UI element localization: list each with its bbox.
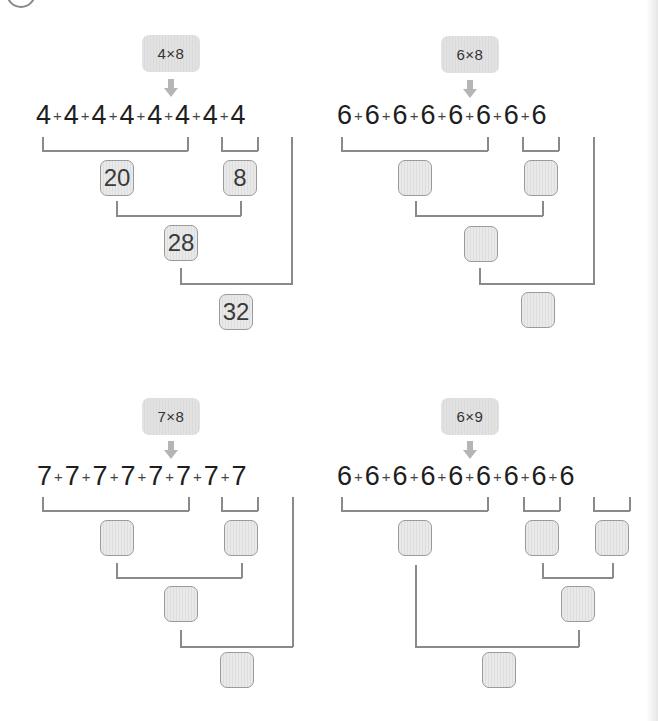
bracket-line [593,137,595,284]
bracket-line [479,283,595,285]
bracket-line [522,137,524,151]
bracket-line [221,497,223,511]
bracket-line [42,497,44,511]
problem-6x8: 6×8 6+6+6+6+6+6+6+6 [299,0,619,330]
bracket-line [341,497,343,511]
addend: 6 [532,456,547,496]
addend: 6 [476,456,491,496]
bracket-line [629,497,631,511]
addend: 6 [559,456,574,496]
bracket-line [116,215,241,217]
addend: 4 [231,95,246,135]
answer-box-partial[interactable] [561,586,595,622]
bracket-line [558,137,560,151]
answer-box-total[interactable] [521,292,555,328]
bracket-line [180,630,182,647]
addend: 7 [93,456,108,496]
bracket-line [578,630,580,647]
addend: 6 [337,95,352,135]
bracket-line [415,646,579,648]
bracket-line [42,137,44,151]
addend: 4 [175,95,190,135]
bracket-line [487,497,489,511]
bracket-line [291,137,293,284]
addend: 6 [448,456,463,496]
addend: 6 [420,456,435,496]
bracket-line [292,497,294,647]
repeated-addition-expression: 4+4+4+4+4+4+4+4 [36,95,246,135]
bracket-line [180,268,182,284]
addend: 6 [420,95,435,135]
addend: 6 [476,95,491,135]
answer-box-group-a[interactable] [398,520,432,556]
problem-label: 6×9 [441,398,499,435]
repeated-addition-expression: 6+6+6+6+6+6+6+6+6 [337,456,574,496]
addend: 6 [504,95,519,135]
answer-box-partial[interactable] [464,226,498,262]
addend: 7 [176,456,191,496]
answer-box-total[interactable] [220,652,254,688]
bracket-line [221,137,223,151]
repeated-addition-expression: 6+6+6+6+6+6+6+6 [337,95,547,135]
addend: 6 [393,456,408,496]
bracket-line [116,563,118,578]
addend: 7 [204,456,219,496]
bracket-line [180,283,293,285]
problem-label: 4×8 [142,35,200,72]
problem-label: 7×8 [142,398,200,435]
bracket-line [188,497,190,511]
bracket-line [542,563,544,578]
problem-4x8: 4×8 4+4+4+4+4+4+4+4 20 8 28 32 [0,0,320,330]
answer-box-group-a[interactable] [398,160,432,196]
answer-box-partial[interactable] [164,586,198,622]
addend: 6 [337,456,352,496]
addend: 4 [147,95,162,135]
bracket-line [241,563,243,578]
bracket-line [522,150,559,152]
answer-box-group-c[interactable] [595,520,629,556]
problem-label: 6×8 [441,36,499,73]
problem-7x8: 7×8 7+7+7+7+7+7+7+7 [0,380,320,710]
addend: 6 [365,456,380,496]
bracket-line [479,268,481,284]
problem-6x9: 6×9 6+6+6+6+6+6+6+6+6 [299,380,658,710]
addend: 7 [148,456,163,496]
bracket-line [341,150,488,152]
addend: 6 [393,95,408,135]
answer-box-group-b[interactable]: 8 [223,160,257,196]
bracket-line [221,510,258,512]
bracket-line [257,137,259,151]
addend: 4 [119,95,134,135]
bracket-line [116,577,242,579]
addend: 7 [65,456,80,496]
bracket-line [559,497,561,511]
answer-box-total[interactable] [482,652,516,688]
answer-box-group-a[interactable]: 20 [100,160,134,196]
answer-box-group-b[interactable] [525,520,559,556]
bracket-line [341,510,488,512]
repeated-addition-expression: 7+7+7+7+7+7+7+7 [37,456,247,496]
bracket-line [542,577,613,579]
addend: 7 [120,456,135,496]
bracket-line [221,150,258,152]
addend: 6 [365,95,380,135]
bracket-line [415,565,417,647]
addend: 6 [504,456,519,496]
answer-box-group-a[interactable] [100,520,134,556]
addend: 4 [64,95,79,135]
answer-box-total[interactable]: 32 [219,294,253,330]
answer-box-group-b[interactable] [524,160,558,196]
addend: 7 [232,456,247,496]
bracket-line [593,497,595,511]
answer-box-group-b[interactable] [224,520,258,556]
bracket-line [612,563,614,578]
bracket-line [240,201,242,216]
bracket-line [257,497,259,511]
bracket-line [187,137,189,151]
addend: 4 [92,95,107,135]
bracket-line [180,646,293,648]
addend: 6 [532,95,547,135]
addend: 7 [37,456,52,496]
answer-box-partial[interactable]: 28 [164,225,198,261]
bracket-line [42,150,188,152]
